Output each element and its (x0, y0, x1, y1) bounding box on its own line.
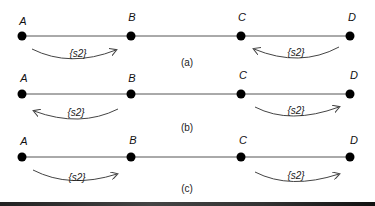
node-a (18, 153, 27, 162)
node-d (346, 32, 355, 41)
node-a (18, 90, 27, 99)
bottom-rule (0, 202, 375, 206)
node-b (127, 153, 136, 162)
arrow-label: {s2} (287, 47, 305, 58)
row-c: A B C D {s2} {s2} (c) (18, 134, 359, 194)
node-c (237, 90, 246, 99)
node-label-a: A (18, 15, 26, 27)
caption-a: (a) (181, 57, 193, 68)
node-label-d: D (348, 11, 356, 23)
node-a (18, 32, 27, 41)
arrow-label: {s2} (67, 107, 85, 118)
node-label-d: D (350, 69, 358, 81)
row-a: A B C D {s2} {s2} (a) (18, 11, 357, 68)
caption-c: (c) (181, 183, 193, 194)
node-label-a: A (19, 72, 27, 84)
node-label-b: B (128, 72, 135, 84)
node-label-a: A (19, 135, 27, 147)
node-c (237, 153, 246, 162)
arrow-label: {s2} (68, 172, 86, 183)
node-d (346, 153, 355, 162)
node-label-b: B (128, 11, 135, 23)
node-label-c: C (238, 11, 246, 23)
node-label-c: C (239, 69, 247, 81)
arrow-label: {s2} (287, 105, 305, 116)
node-label-d: D (350, 134, 358, 146)
path-diagram: A B C D {s2} {s2} (a) A B C D {s2} {s2} … (0, 0, 375, 206)
node-b (127, 32, 136, 41)
row-b: A B C D {s2} {s2} (b) (18, 69, 359, 133)
arrow-label: {s2} (69, 48, 87, 59)
node-d (346, 90, 355, 99)
caption-b: (b) (181, 122, 193, 133)
node-c (237, 32, 246, 41)
node-label-b: B (129, 134, 136, 146)
node-label-c: C (239, 134, 247, 146)
arrow-label: {s2} (287, 170, 305, 181)
node-b (127, 90, 136, 99)
